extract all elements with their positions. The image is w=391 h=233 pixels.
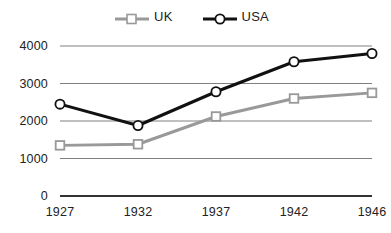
data-point-uk-1927[interactable] (56, 141, 65, 150)
data-point-usa-1932[interactable] (133, 121, 142, 130)
y-axis-tick-label-0: 0 (4, 190, 48, 203)
series-uk (56, 89, 377, 150)
x-axis-tick-label-1927: 1927 (35, 206, 85, 219)
y-axis-tick-label-2000: 2000 (4, 115, 48, 128)
x-axis-tick-label-1932: 1932 (113, 206, 163, 219)
data-point-uk-1937[interactable] (212, 112, 221, 121)
data-point-usa-1942[interactable] (289, 57, 298, 66)
x-axis-tick-label-1946: 1946 (347, 206, 391, 219)
y-axis-tick-label-1000: 1000 (4, 153, 48, 166)
data-point-uk-1932[interactable] (134, 140, 143, 149)
data-point-usa-1946[interactable] (367, 49, 376, 58)
data-point-uk-1946[interactable] (368, 89, 377, 98)
x-axis-tick-label-1942: 1942 (269, 206, 319, 219)
series-layer (55, 49, 376, 150)
x-axis-tick-label-1937: 1937 (191, 206, 241, 219)
y-axis-tick-label-4000: 4000 (4, 40, 48, 53)
y-axis-tick-label-3000: 3000 (4, 78, 48, 91)
data-point-usa-1937[interactable] (211, 87, 220, 96)
data-point-uk-1942[interactable] (290, 94, 299, 103)
data-point-usa-1927[interactable] (55, 100, 64, 109)
